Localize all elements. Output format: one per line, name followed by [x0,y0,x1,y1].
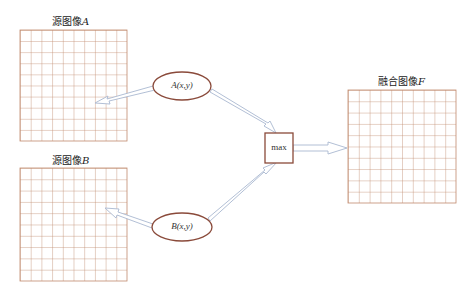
source-image-a-grid [20,30,127,141]
node-b-label: B(x,y) [152,221,212,231]
source-image-b-grid [20,168,127,281]
node-a-args: (x,y) [177,80,193,90]
fusion-diagram [0,0,473,299]
arrow-b-to-max [208,162,277,221]
fused-image-f-label-prefix: 融合图像 [378,76,418,87]
source-image-a-label-prefix: 源图像 [52,16,82,27]
source-image-a-label: 源图像A [52,13,89,28]
max-operator-label: max [265,142,293,152]
node-a-label: A(x,y) [153,80,211,90]
fused-image-f-grid [348,90,456,203]
node-b-args: (x,y) [177,221,193,231]
arrow-a-to-max [210,89,276,133]
source-image-b-label-prefix: 源图像 [52,155,82,166]
fused-image-f-label-var: F [418,76,425,87]
fused-image-f-label: 融合图像F [378,73,425,88]
source-image-b-label: 源图像B [52,152,89,167]
source-image-b-label-var: B [82,155,89,166]
source-image-a-label-var: A [82,16,89,27]
arrow-max-to-fused [293,142,347,154]
